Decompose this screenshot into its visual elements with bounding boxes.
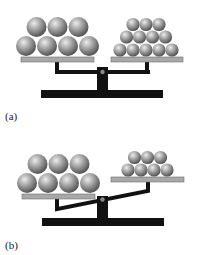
panel-label-a: (a) [5,110,17,122]
right-post [146,182,150,191]
left-post [55,61,59,72]
right-post [145,61,149,72]
left-post [55,198,59,210]
pivot-icon [100,197,104,201]
right-pan-balls [121,151,173,177]
left-pan-balls [17,154,100,193]
balance-scale-diagram [0,0,199,255]
scale-b [17,151,184,226]
panel-label-b: (b) [5,239,18,251]
right-pan [111,57,183,62]
left-pan [21,57,94,62]
left-pan-balls [16,17,99,56]
right-pan [111,177,184,182]
right-pan-balls [113,18,178,57]
scale-a [16,17,183,98]
pivot-icon [100,70,104,74]
left-pan [22,194,95,199]
